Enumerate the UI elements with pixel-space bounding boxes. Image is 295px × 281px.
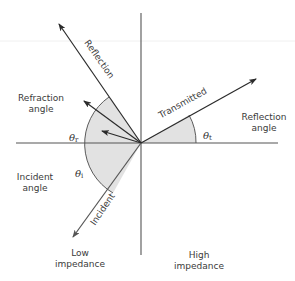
refraction-angle-label-line1: Refraction — [14, 93, 68, 104]
high-impedance-label-line1: High — [171, 250, 227, 261]
theta-t-subscript: t — [209, 134, 212, 142]
theta-r-subscript: r — [75, 136, 78, 144]
low-impedance-label-line2: impedance — [52, 259, 108, 270]
incident-reflection-angle-sector — [85, 97, 141, 193]
theta-i-symbol: θi — [75, 168, 83, 180]
reflection-angle-label-line2: angle — [236, 123, 292, 134]
incident-angle-label-line1: Incident — [10, 172, 60, 183]
refraction-angle-label-line2: angle — [14, 104, 68, 115]
incident-angle-label-line2: angle — [10, 183, 60, 194]
reflection-angle-label-line1: Reflection — [236, 112, 292, 123]
theta-t-symbol: θt — [203, 130, 212, 142]
low-impedance-label: Low impedance — [52, 248, 108, 270]
impedance-boundary-diagram — [0, 0, 295, 281]
refraction-angle-label: Refraction angle — [14, 93, 68, 115]
low-impedance-label-line1: Low — [52, 248, 108, 259]
reflection-angle-label: Reflection angle — [236, 112, 292, 134]
high-impedance-label-line2: impedance — [171, 261, 227, 272]
theta-i-subscript: i — [81, 172, 83, 180]
incident-angle-label: Incident angle — [10, 172, 60, 194]
theta-r-symbol: θr — [69, 132, 78, 144]
high-impedance-label: High impedance — [171, 250, 227, 272]
